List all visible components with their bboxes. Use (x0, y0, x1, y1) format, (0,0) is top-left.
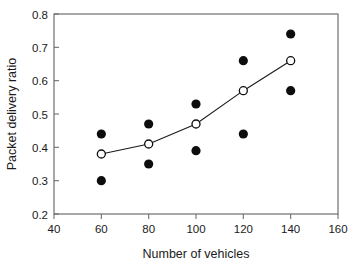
x-tick-label: 40 (48, 223, 61, 235)
data-point-open (239, 87, 247, 95)
y-axis-title: Packet delivery ratio (5, 58, 19, 171)
y-tick-label: 0.6 (32, 75, 48, 87)
data-point-filled (191, 99, 200, 108)
y-tick-label: 0.5 (32, 109, 48, 121)
data-point-filled (286, 86, 295, 95)
data-point-filled (239, 129, 248, 138)
chart-figure: 0.8 0.7 0.6 0.5 0.4 0.3 0.2 40 60 80 100… (0, 0, 360, 274)
y-tick-labels: 0.8 0.7 0.6 0.5 0.4 0.3 0.2 (32, 9, 49, 221)
y-tick-label: 0.2 (32, 209, 48, 221)
y-tick-marks (54, 14, 59, 214)
data-layer (97, 29, 296, 185)
data-point-filled (191, 146, 200, 155)
x-tick-label: 140 (281, 223, 300, 235)
x-tick-marks (54, 214, 338, 219)
y-tick-label: 0.3 (32, 175, 48, 187)
data-point-open (145, 140, 153, 148)
data-point-filled (144, 159, 153, 168)
x-tick-labels: 40 60 80 100 120 140 160 (48, 223, 348, 235)
data-point-filled (97, 129, 106, 138)
x-tick-label: 160 (328, 223, 347, 235)
data-point-open (192, 120, 200, 128)
x-tick-label: 80 (142, 223, 155, 235)
data-point-filled (144, 119, 153, 128)
x-axis-title: Number of vehicles (143, 247, 250, 261)
data-point-filled (239, 56, 248, 65)
data-point-open (287, 57, 295, 65)
data-point-filled (97, 176, 106, 185)
x-tick-label: 100 (186, 223, 205, 235)
y-tick-label: 0.4 (32, 142, 49, 154)
y-tick-label: 0.7 (32, 42, 48, 54)
data-point-filled (286, 29, 295, 38)
chart-canvas: 0.8 0.7 0.6 0.5 0.4 0.3 0.2 40 60 80 100… (0, 0, 360, 274)
y-tick-label: 0.8 (32, 9, 48, 21)
plot-frame (54, 14, 338, 214)
x-tick-label: 120 (234, 223, 253, 235)
x-tick-label: 60 (95, 223, 108, 235)
data-point-open (97, 150, 105, 158)
